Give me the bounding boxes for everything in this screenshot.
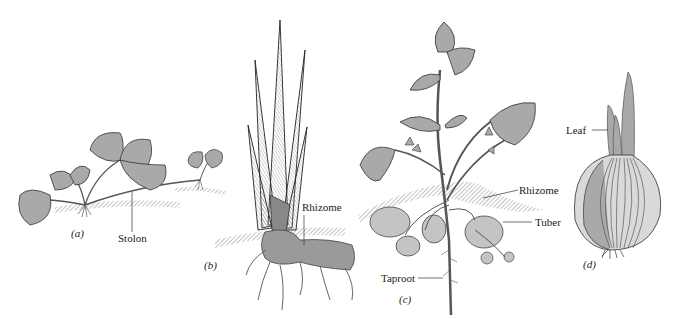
panel-a-strawberry [19, 133, 225, 232]
callout-rhizome-c: Rhizome [519, 185, 559, 196]
panel-label-a: (a) [71, 228, 84, 239]
tuber [465, 216, 503, 248]
soil-line-a [55, 203, 180, 210]
callout-leaf: Leaf [566, 125, 586, 136]
plant-structures-figure: (a) Stolon (b) Rhizome (c) Rhizome Tuber… [0, 0, 676, 319]
callout-stolon: Stolon [118, 233, 147, 244]
panel-d-onion [574, 72, 660, 259]
callout-tuber: Tuber [535, 217, 561, 228]
panel-label-d: (d) [583, 259, 596, 270]
callout-rhizome-b: Rhizome [302, 202, 342, 213]
panel-label-c: (c) [399, 294, 411, 305]
rhizome-b [262, 230, 355, 270]
illustration [0, 0, 676, 319]
panel-label-b: (b) [204, 260, 217, 271]
callout-taproot: Taproot [381, 273, 415, 284]
panel-b-iris [215, 20, 355, 310]
